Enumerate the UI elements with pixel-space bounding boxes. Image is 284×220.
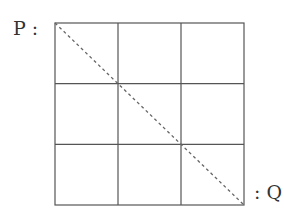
diagonal-dashed-line [55,23,244,205]
grid-diagram [0,0,284,220]
